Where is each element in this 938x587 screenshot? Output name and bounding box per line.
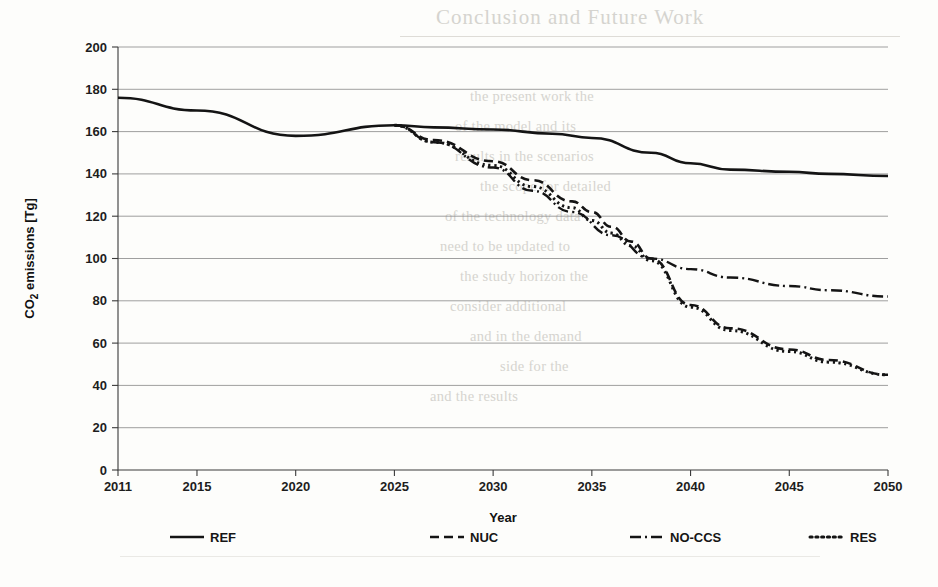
y-tick-label: 120 <box>85 209 107 224</box>
axis-titles: YearCO2 emissions [Tg] <box>22 198 517 525</box>
legend-item-res: RES <box>810 530 877 545</box>
legend-label-no-ccs: NO-CCS <box>670 530 722 545</box>
x-tick-label: 2045 <box>775 479 804 494</box>
data-series <box>118 98 888 375</box>
chart-legend: REFNUCNO-CCSRES <box>170 530 877 545</box>
y-axis-title: CO2 emissions [Tg] <box>22 198 40 318</box>
y-tick-label: 20 <box>93 420 107 435</box>
axes <box>112 47 888 476</box>
y-tick-label: 0 <box>100 463 107 478</box>
legend-item-ref: REF <box>170 530 236 545</box>
y-tick-label: 160 <box>85 124 107 139</box>
series-line-nuc <box>394 125 888 375</box>
x-tick-label: 2035 <box>577 479 606 494</box>
y-tick-label: 80 <box>93 293 107 308</box>
y-tick-label: 180 <box>85 82 107 97</box>
x-tick-label: 2015 <box>183 479 212 494</box>
legend-label-nuc: NUC <box>470 530 499 545</box>
x-tick-label: 2025 <box>380 479 409 494</box>
y-tick-label: 140 <box>85 166 107 181</box>
x-tick-label: 2030 <box>479 479 508 494</box>
y-tick-label: 40 <box>93 378 107 393</box>
x-tick-label: 2050 <box>874 479 903 494</box>
y-tick-label: 200 <box>85 40 107 55</box>
x-axis-title: Year <box>489 510 516 525</box>
legend-label-res: RES <box>850 530 877 545</box>
gridlines <box>118 47 888 428</box>
chart-canvas: 0204060801001201401601802002011201520202… <box>0 0 938 587</box>
legend-label-ref: REF <box>210 530 236 545</box>
x-tick-label: 2040 <box>676 479 705 494</box>
co2-emissions-line-chart: 0204060801001201401601802002011201520202… <box>0 0 938 587</box>
x-tick-label: 2011 <box>104 479 132 494</box>
legend-item-no-ccs: NO-CCS <box>630 530 722 545</box>
x-tick-label: 2020 <box>281 479 310 494</box>
y-tick-label: 60 <box>93 336 107 351</box>
legend-item-nuc: NUC <box>430 530 499 545</box>
y-tick-label: 100 <box>85 251 107 266</box>
tick-labels: 0204060801001201401601802002011201520202… <box>85 40 902 495</box>
